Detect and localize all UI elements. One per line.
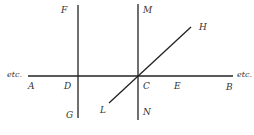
- label-g: G: [66, 111, 73, 120]
- diagonal-line-lh: [109, 27, 191, 103]
- label-d: D: [64, 82, 71, 91]
- label-f: F: [61, 6, 67, 15]
- label-m: M: [143, 6, 152, 15]
- label-b: B: [226, 83, 233, 92]
- label-l: L: [100, 106, 106, 115]
- label-a: A: [28, 82, 35, 91]
- label-e: E: [174, 82, 181, 91]
- label-etc-left: etc.: [7, 71, 22, 79]
- label-c: C: [143, 82, 150, 91]
- label-etc-right: etc.: [237, 71, 252, 79]
- geometry-diagram: [0, 0, 254, 135]
- label-n: N: [143, 108, 151, 117]
- label-h: H: [199, 23, 207, 32]
